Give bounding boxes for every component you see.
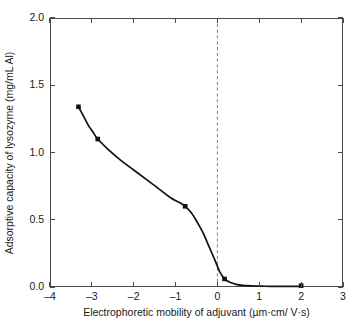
y-axis-tick	[50, 219, 55, 220]
adsorption-curve	[78, 107, 301, 287]
x-axis-tick	[91, 18, 92, 23]
x-axis-tick	[175, 282, 176, 287]
data-point-markers	[76, 104, 303, 287]
x-axis-tick-label: 1	[239, 290, 279, 302]
x-axis-tick	[301, 282, 302, 287]
x-axis-tick	[217, 282, 218, 287]
y-axis-tick	[338, 219, 343, 220]
data-point-marker	[76, 104, 81, 109]
y-axis-tick-label: 0.5	[4, 213, 44, 225]
x-axis-tick	[259, 282, 260, 287]
x-axis-tick-label: –1	[156, 290, 196, 302]
y-axis-tick	[338, 85, 343, 86]
plot-data-layer	[50, 18, 343, 287]
series-group	[76, 104, 303, 287]
x-axis-tick	[49, 18, 50, 23]
x-axis-tick	[133, 18, 134, 23]
x-axis-tick-label: –3	[72, 290, 112, 302]
chart-figure: Adsorptive capacity of lysozyme (mg/mL A…	[0, 0, 363, 329]
y-axis-tick	[50, 286, 55, 287]
x-axis-tick-label: –2	[114, 290, 154, 302]
x-axis-tick-label: 0	[197, 290, 237, 302]
y-axis-tick-label: 0.0	[4, 280, 44, 292]
y-axis-tick-label: 1.0	[4, 146, 44, 158]
x-axis-tick	[175, 18, 176, 23]
y-axis-tick	[50, 85, 55, 86]
x-axis-title: Electrophoretic mobility of adjuvant (µm…	[50, 306, 343, 318]
x-axis-tick	[342, 18, 343, 23]
x-axis-tick	[301, 18, 302, 23]
y-axis-tick	[338, 286, 343, 287]
x-axis-tick-label: 2	[281, 290, 321, 302]
y-axis-tick	[50, 17, 55, 18]
data-point-marker	[183, 204, 188, 209]
x-axis-tick	[217, 18, 218, 23]
y-axis-tick	[50, 152, 55, 153]
y-axis-tick	[338, 152, 343, 153]
data-point-marker	[95, 137, 100, 142]
x-axis-tick	[259, 18, 260, 23]
y-axis-tick	[338, 17, 343, 18]
x-axis-tick	[133, 282, 134, 287]
y-axis-tick-label: 1.5	[4, 78, 44, 90]
x-axis-tick-label: 3	[323, 290, 363, 302]
x-axis-tick	[91, 282, 92, 287]
y-axis-tick-label: 2.0	[4, 11, 44, 23]
data-point-marker	[222, 277, 227, 282]
